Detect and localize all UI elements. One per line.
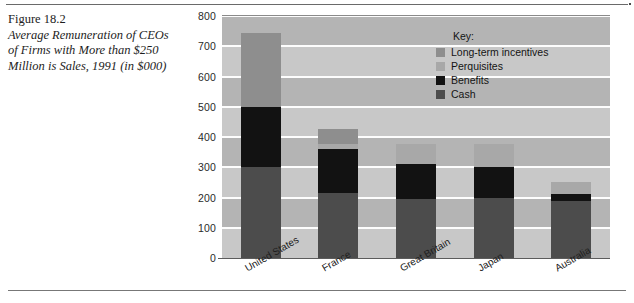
y-axis-tick-label: 200 <box>188 192 216 204</box>
bar-segment <box>551 182 591 194</box>
page-bottom-rule <box>8 290 626 291</box>
figure-caption: Figure 18.2 Average Remuneration of CEOs… <box>8 12 178 74</box>
y-axis-tick-label: 600 <box>188 71 216 83</box>
legend-item-label: Benefits <box>451 74 489 86</box>
bar-segment <box>318 144 358 149</box>
bar-segment <box>474 198 514 259</box>
bar-segment <box>474 167 514 197</box>
legend-item-label: Perquisites <box>451 60 503 72</box>
legend-swatch-icon <box>436 48 445 57</box>
bar <box>318 16 358 258</box>
bar-segment <box>241 33 281 107</box>
y-axis-tick-label: 100 <box>188 222 216 234</box>
figure-number: Figure 18.2 <box>8 12 178 28</box>
figure-description: Average Remuneration of CEOs of Firms wi… <box>8 28 178 75</box>
legend-item-label: Cash <box>451 88 476 100</box>
legend-swatch-icon <box>436 62 445 71</box>
bar-segment <box>241 107 281 168</box>
bar-segment <box>396 164 436 199</box>
legend-swatch-icon <box>436 76 445 85</box>
y-axis-tick-label: 0 <box>188 252 216 264</box>
legend-item-label: Long-term incentives <box>451 46 548 58</box>
bar-segment <box>551 194 591 201</box>
bar-segment <box>396 144 436 165</box>
bar-segment <box>474 144 514 168</box>
y-axis-tick-label: 300 <box>188 161 216 173</box>
bar-segment <box>318 193 358 258</box>
legend-item: Perquisites <box>436 59 548 73</box>
legend-items: Long-term incentivesPerquisitesBenefitsC… <box>436 45 548 101</box>
bar <box>241 16 281 258</box>
bar-segment <box>318 149 358 193</box>
legend-item: Cash <box>436 87 548 101</box>
legend-item: Long-term incentives <box>436 45 548 59</box>
chart-legend: Key: Long-term incentivesPerquisitesBene… <box>436 30 548 101</box>
bar <box>551 16 591 258</box>
y-axis-tick-label: 800 <box>188 10 216 22</box>
page-top-rule-endpoint <box>629 3 631 5</box>
legend-title: Key: <box>453 30 548 42</box>
bar-segment <box>318 129 358 143</box>
chart-figure: 0100200300400500600700800 United StatesF… <box>188 8 626 290</box>
y-axis-tick-label: 400 <box>188 131 216 143</box>
y-axis-tick-label: 700 <box>188 40 216 52</box>
bar <box>396 16 436 258</box>
page-top-rule <box>6 4 628 5</box>
legend-item: Benefits <box>436 73 548 87</box>
y-axis-tick-label: 500 <box>188 101 216 113</box>
legend-swatch-icon <box>436 90 445 99</box>
